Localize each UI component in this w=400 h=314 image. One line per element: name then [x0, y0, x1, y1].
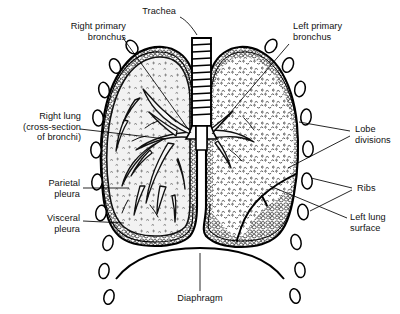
left-lung	[204, 47, 300, 250]
label-left-primary-bronchus: Left primary bronchus	[293, 21, 389, 42]
mediastinum	[196, 126, 207, 150]
label-right-primary-bronchus: Right primary bronchus	[28, 21, 126, 42]
label-ribs: Ribs	[357, 183, 397, 194]
rib-cross-section	[303, 141, 313, 157]
label-left-lung-surface: Left lung surface	[350, 212, 400, 233]
label-lobe-divisions: Lobe divisions	[355, 124, 400, 145]
label-diaphragm: Diaphragm	[166, 293, 234, 304]
rib-cross-section	[91, 142, 101, 158]
label-visceral-pleura: Visceral pleura	[8, 213, 80, 234]
label-trachea: Trachea	[108, 6, 176, 17]
lung-anatomy-figure: Right primary bronchus Trachea Left prim…	[0, 0, 400, 314]
label-right-lung: Right lung (cross-section of bronchi)	[2, 111, 81, 143]
lung-diagram-artwork	[0, 0, 400, 314]
label-parietal-pleura: Parietal pleura	[8, 178, 80, 199]
rib-cross-section	[301, 173, 312, 190]
